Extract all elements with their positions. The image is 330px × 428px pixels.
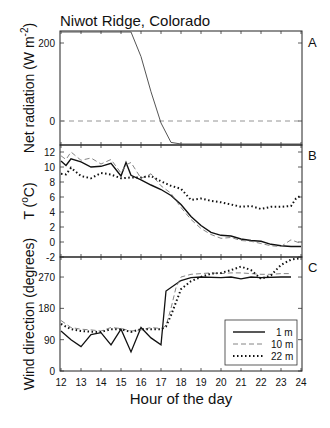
x-tick-label: 12 bbox=[55, 377, 67, 388]
y-tick-label: 4 bbox=[49, 207, 55, 218]
panel-label-a: A bbox=[308, 35, 317, 50]
y-tick-label: 2 bbox=[49, 222, 55, 233]
y-axis-label-a: Net radiation (W m-2) bbox=[19, 23, 37, 153]
x-tick-label: 18 bbox=[175, 377, 187, 388]
panel-c: C 090180270 Wind direction (degrees) 1 m… bbox=[21, 238, 317, 391]
net-radiation-line bbox=[61, 32, 301, 144]
y-tick-label: 8 bbox=[49, 177, 55, 188]
y-tick-label: 10 bbox=[44, 162, 56, 173]
legend: 1 m 10 m 22 m bbox=[225, 320, 297, 365]
x-axis-label: Hour of the day bbox=[130, 390, 233, 407]
legend-entry-22m: 22 m bbox=[271, 351, 293, 362]
y-tick-label: 90 bbox=[44, 335, 56, 346]
y-tick-label: -2 bbox=[46, 252, 55, 263]
x-tick-label: 14 bbox=[95, 377, 107, 388]
x-tick-label: 13 bbox=[75, 377, 87, 388]
chart-title: Niwot Ridge, Colorado bbox=[60, 12, 210, 29]
y-tick-label: 0 bbox=[49, 366, 55, 377]
y-axis-ticks-a: 0200 bbox=[38, 38, 302, 127]
panel-label-b: B bbox=[308, 148, 317, 163]
y-tick-label: 0 bbox=[49, 237, 55, 248]
y-tick-label: 6 bbox=[49, 192, 55, 203]
x-tick-label: 21 bbox=[235, 377, 247, 388]
y-axis-label-b: T (oC) bbox=[19, 182, 37, 219]
figure: Niwot Ridge, Colorado A 0200 Net radiati… bbox=[0, 0, 330, 428]
panel-label-c: C bbox=[308, 260, 317, 275]
panel-b: B -2024681012 T (oC) bbox=[19, 145, 317, 263]
panel-a: A 0200 Net radiation (W m-2) bbox=[19, 23, 317, 153]
y-axis-ticks-b: -2024681012 bbox=[44, 147, 302, 263]
x-tick-label: 19 bbox=[195, 377, 207, 388]
x-tick-label: 24 bbox=[295, 377, 307, 388]
y-tick-label: 180 bbox=[38, 303, 55, 314]
legend-entry-10m: 10 m bbox=[271, 339, 293, 350]
y-axis-label-c: Wind direction (degrees) bbox=[21, 238, 37, 391]
x-tick-label: 22 bbox=[255, 377, 267, 388]
y-tick-label: 12 bbox=[44, 147, 56, 158]
temperature-1m-line bbox=[61, 159, 301, 247]
temperature-22m-line bbox=[61, 168, 301, 209]
y-tick-label: 200 bbox=[38, 38, 55, 49]
legend-entry-1m: 1 m bbox=[276, 327, 293, 338]
x-tick-label: 15 bbox=[115, 377, 127, 388]
x-tick-label: 16 bbox=[135, 377, 147, 388]
y-tick-label: 270 bbox=[38, 272, 55, 283]
y-tick-label: 0 bbox=[49, 116, 55, 127]
x-tick-label: 17 bbox=[155, 377, 167, 388]
x-tick-label: 20 bbox=[215, 377, 227, 388]
x-tick-label: 23 bbox=[275, 377, 287, 388]
